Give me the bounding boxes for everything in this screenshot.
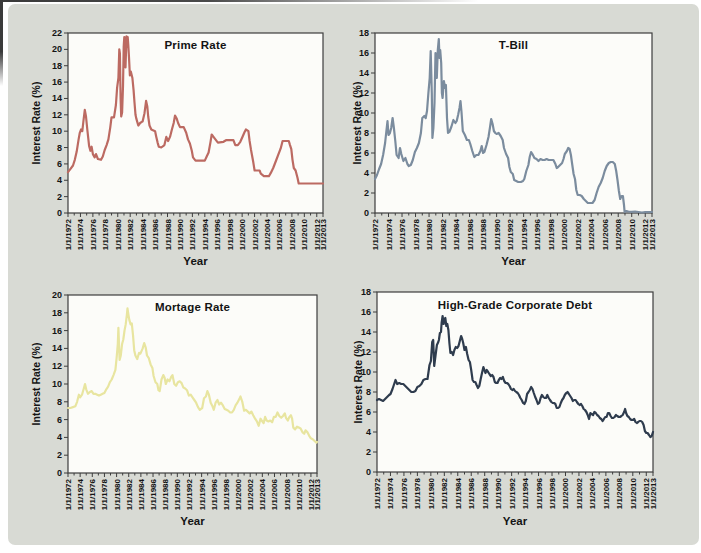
x-axis-label: Year — [68, 515, 317, 527]
x-tick-label: 1/1/1978 — [412, 218, 421, 250]
x-tick-label: 1/1/1972 — [371, 218, 380, 250]
y-tick-label: 12 — [52, 110, 62, 120]
y-tick-label: 0 — [366, 467, 371, 477]
x-tick-label: 1/1/2006 — [602, 477, 611, 509]
x-tick-label: 1/1/1998 — [547, 218, 556, 250]
x-tick-label: 1/1/1996 — [213, 218, 222, 250]
x-tick-label: 1/1/1982 — [126, 218, 135, 250]
x-tick-label: 1/1/1974 — [386, 477, 395, 509]
y-tick-label: 0 — [364, 208, 369, 218]
y-tick-label: 10 — [52, 379, 62, 389]
x-tick-label: 1/1/1986 — [466, 218, 475, 250]
x-tick-label: 1/1/1992 — [188, 218, 197, 250]
x-tick-label: 1/1/1990 — [176, 218, 185, 250]
x-tick-label: 1/1/1982 — [439, 218, 448, 250]
x-tick-label: 1/1/1998 — [548, 477, 557, 509]
chart-title: T-Bill — [375, 39, 652, 51]
y-tick-label: 10 — [52, 126, 62, 136]
y-tick-label: 6 — [366, 407, 371, 417]
plot-area — [68, 295, 317, 473]
x-tick-label: 1/1/1996 — [533, 218, 542, 250]
x-tick-label: 1/1/1992 — [185, 478, 194, 510]
x-tick-label: 1/1/1986 — [149, 478, 158, 510]
x-tick-label: 1/1/1998 — [226, 218, 235, 250]
x-tick-label: 1/1/2010 — [628, 218, 637, 250]
y-tick-label: 12 — [52, 361, 62, 371]
x-axis-label: Year — [68, 255, 323, 267]
x-tick-label: 1/1/1980 — [114, 218, 123, 250]
plot-area — [377, 292, 653, 472]
x-tick-label: 1/1/1980 — [425, 218, 434, 250]
y-tick-label: 6 — [57, 415, 62, 425]
x-tick-label: 1/1/1978 — [100, 478, 109, 510]
x-tick-label: 1/1/2002 — [575, 477, 584, 509]
chart-plot-svg-high-grade-corporate-debt: 0246810121416181/1/19721/1/19741/1/19761… — [350, 276, 701, 553]
x-tick-label: 1/1/1992 — [508, 477, 517, 509]
x-tick-label: 1/1/1976 — [400, 477, 409, 509]
y-tick-label: 20 — [52, 44, 62, 54]
x-tick-label: 1/1/2004 — [587, 218, 596, 250]
y-tick-label: 8 — [364, 128, 369, 138]
x-tick-label: 1/1/2000 — [238, 218, 247, 250]
x-tick-label: 1/1/1994 — [521, 477, 530, 509]
x-tick-label: 1/1/1996 — [535, 477, 544, 509]
x-tick-label: 1/1/2000 — [234, 478, 243, 510]
y-tick-label: 22 — [52, 28, 62, 38]
y-tick-label: 16 — [52, 326, 62, 336]
x-tick-label: 1/1/2008 — [614, 218, 623, 250]
y-axis-label: Interest Rate (%) — [30, 343, 42, 426]
chart-title: Mortage Rate — [68, 301, 317, 313]
y-tick-label: 14 — [52, 343, 62, 353]
x-tick-label: 1/1/1974 — [76, 478, 85, 510]
x-tick-label: 1/1/1976 — [88, 478, 97, 510]
x-tick-label: 1/1/2006 — [275, 218, 284, 250]
y-tick-label: 4 — [57, 432, 62, 442]
chart-title: Prime Rate — [68, 39, 323, 51]
chart-title: High-Grade Corporate Debt — [377, 299, 653, 311]
x-tick-label: 1/1/1984 — [137, 478, 146, 510]
y-tick-label: 20 — [52, 290, 62, 300]
y-tick-label: 0 — [57, 468, 62, 478]
y-tick-label: 16 — [52, 77, 62, 87]
x-tick-label: 1/1/2006 — [601, 218, 610, 250]
x-tick-label: 1/1/2013 — [648, 218, 657, 250]
x-tick-label: 1/1/2004 — [258, 478, 267, 510]
x-tick-label: 1/1/1990 — [173, 478, 182, 510]
y-tick-label: 4 — [364, 168, 369, 178]
x-tick-label: 1/1/1990 — [494, 477, 503, 509]
chart-prime-rate: 02468101214161820221/1/19721/1/19741/1/1… — [0, 0, 350, 276]
y-tick-label: 6 — [57, 159, 62, 169]
chart-high-grade-corporate-debt: 0246810121416181/1/19721/1/19741/1/19761… — [350, 276, 701, 553]
x-tick-label: 1/1/1978 — [413, 477, 422, 509]
chart-mortgage-rate: 024681012141618201/1/19721/1/19741/1/197… — [0, 276, 350, 553]
x-tick-label: 1/1/2000 — [561, 477, 570, 509]
x-tick-label: 1/1/1972 — [64, 478, 73, 510]
x-tick-label: 1/1/1976 — [89, 218, 98, 250]
y-axis-label: Interest Rate (%) — [30, 82, 42, 165]
y-tick-label: 6 — [364, 148, 369, 158]
x-tick-label: 1/1/1980 — [113, 478, 122, 510]
y-tick-label: 16 — [359, 48, 369, 58]
x-tick-label: 1/1/1980 — [427, 477, 436, 509]
x-tick-label: 1/1/2008 — [288, 218, 297, 250]
y-tick-label: 2 — [57, 450, 62, 460]
y-axis-label: Interest Rate (%) — [352, 341, 364, 424]
y-tick-label: 4 — [57, 175, 62, 185]
x-tick-label: 1/1/1984 — [452, 218, 461, 250]
x-tick-label: 1/1/1988 — [164, 218, 173, 250]
x-tick-label: 1/1/1982 — [125, 478, 134, 510]
x-axis-label: Year — [377, 515, 653, 527]
x-tick-label: 1/1/1984 — [454, 477, 463, 509]
x-tick-label: 1/1/2013 — [313, 478, 322, 510]
y-tick-label: 18 — [52, 61, 62, 71]
x-tick-label: 1/1/2002 — [574, 218, 583, 250]
x-tick-label: 1/1/2006 — [270, 478, 279, 510]
x-tick-label: 1/1/1988 — [481, 477, 490, 509]
x-tick-label: 1/1/2010 — [629, 477, 638, 509]
y-tick-label: 14 — [361, 327, 371, 337]
x-tick-label: 1/1/2004 — [588, 477, 597, 509]
y-tick-label: 16 — [361, 307, 371, 317]
y-tick-label: 2 — [57, 192, 62, 202]
x-tick-label: 1/1/2002 — [251, 218, 260, 250]
y-tick-label: 14 — [52, 93, 62, 103]
